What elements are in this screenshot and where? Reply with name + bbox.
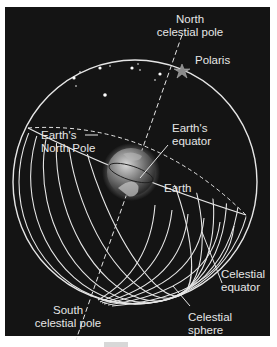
earth-label: Earth [164,182,192,195]
south-celestial-pole-label: South celestial pole [28,304,108,330]
stars [72,63,161,97]
north-celestial-pole-label: North celestial pole [150,13,230,39]
celestial-equator-label: Celestial equator [221,268,265,294]
polaris-label: Polaris [195,54,230,67]
page-tab-marker [104,342,128,347]
earths-equator-label: Earth's equator [172,122,211,148]
earths-north-pole-label: Earth's North Pole [41,129,95,155]
celestial-sphere-label: Celestial sphere [188,311,232,337]
celestial-sphere-diagram [0,0,277,347]
polaris-star-icon [174,64,190,78]
